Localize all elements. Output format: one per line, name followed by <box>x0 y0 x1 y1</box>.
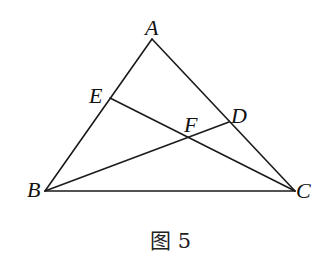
label-point-a: A <box>143 15 159 40</box>
segment-ab <box>45 39 152 191</box>
segment-bd <box>45 122 229 191</box>
figure-caption: 图 5 <box>150 229 191 253</box>
label-point-e: E <box>88 83 103 108</box>
segment-ac <box>152 39 295 191</box>
diagram-canvas: A B C D E F 图 5 <box>0 0 336 263</box>
label-point-f: F <box>183 112 198 137</box>
label-point-d: D <box>230 103 247 128</box>
label-point-b: B <box>27 177 40 202</box>
segment-ce <box>110 98 295 191</box>
label-point-c: C <box>296 178 311 203</box>
triangle-diagram: A B C D E F 图 5 <box>0 0 336 263</box>
